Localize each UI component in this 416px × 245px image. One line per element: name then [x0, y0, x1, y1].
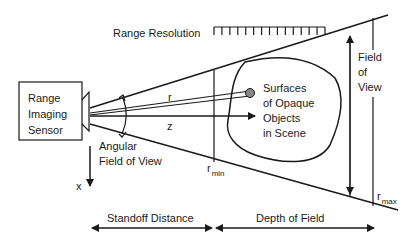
- sensor-lens-icon: [82, 92, 89, 131]
- fov-label-line3: View: [358, 81, 382, 93]
- surface-point-icon: [246, 89, 255, 98]
- angular-fov-label-line2: Field of View: [99, 155, 162, 167]
- opaque-object-outline: [227, 58, 341, 162]
- range-imaging-diagram: Range Imaging Sensor r z x Angular Field…: [0, 0, 416, 245]
- angular-fov-label-line1: Angular: [99, 140, 137, 152]
- fov-lower-boundary: [90, 124, 398, 210]
- r-min-label: rmin: [207, 162, 225, 178]
- r-max-base: r: [377, 190, 381, 202]
- fov-label-line2: of: [358, 66, 368, 78]
- object-label-line2: of Opaque: [263, 97, 314, 109]
- sensor-label-line1: Range: [28, 92, 60, 104]
- range-resolution-label: Range Resolution: [113, 27, 200, 39]
- range-resolution-scale: [214, 27, 325, 35]
- ray-label: r: [168, 91, 172, 103]
- range-imaging-sensor: Range Imaging Sensor: [19, 82, 89, 140]
- object-label-line4: in Scene: [263, 127, 306, 139]
- depth-of-field-label: Depth of Field: [256, 212, 324, 224]
- object-label-line1: Surfaces: [263, 82, 307, 94]
- standoff-distance-label: Standoff Distance: [107, 212, 194, 224]
- sensor-label-line2: Imaging: [28, 108, 67, 120]
- r-min-base: r: [207, 162, 211, 174]
- r-max-label: rmax: [377, 190, 397, 206]
- r-max-sub: max: [382, 197, 397, 206]
- sensor-label-line3: Sensor: [28, 124, 63, 136]
- r-min-sub: min: [212, 169, 225, 178]
- fov-label-line1: Field: [358, 51, 382, 63]
- object-label-line3: Objects: [263, 112, 301, 124]
- x-axis-label: x: [76, 180, 82, 192]
- z-axis-label: z: [167, 120, 173, 132]
